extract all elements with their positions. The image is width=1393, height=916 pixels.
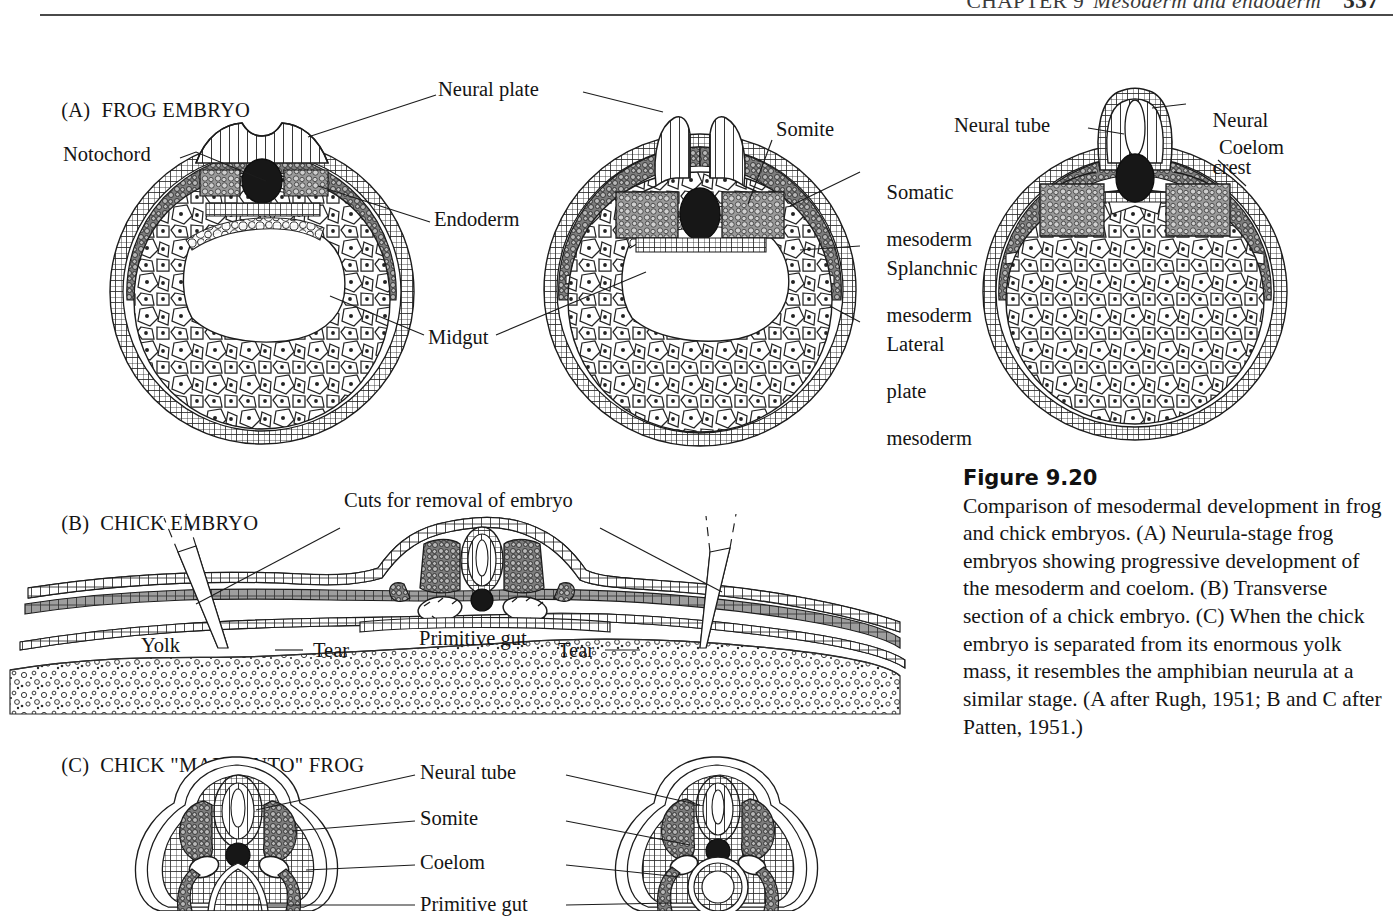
label-cuts-for-removal: Cuts for removal of embryo [344,489,573,512]
label-splanchnic-mesoderm-line1: Splanchnic [887,257,978,279]
figure-caption: Figure 9.20 Comparison of mesodermal dev… [963,466,1383,741]
label-neural-tube-a: Neural tube [954,114,1050,137]
label-tear-right: Tear [558,639,594,662]
label-lateral-plate-line2: plate [887,380,927,402]
label-neural-crest-line2: crest [1213,156,1252,178]
label-coelom-c: Coelom [420,851,485,874]
figure-caption-body: Comparison of mesodermal development in … [963,493,1383,742]
label-midgut: Midgut [428,326,488,349]
panel-c-leader-lines [0,745,1393,911]
label-yolk: Yolk [141,634,180,657]
label-lateral-plate-line3: mesoderm [887,427,972,449]
label-notochord: Notochord [63,143,151,166]
label-somite-c: Somite [420,807,478,830]
panel-a-leader-lines [0,0,1393,470]
label-neural-plate: Neural plate [438,78,539,101]
label-primitive-gut-b: Primitive gut [419,627,527,650]
label-tear-left: Tear [313,639,349,662]
label-neural-crest-line1: Neural [1213,109,1269,131]
label-somite: Somite [776,118,834,141]
label-primitive-gut-c: Primitive gut [420,893,528,916]
label-lateral-plate-line1: Lateral [887,333,945,355]
label-endoderm: Endoderm [434,208,519,231]
label-neural-tube-c: Neural tube [420,761,516,784]
label-lateral-plate-mesoderm: Lateral plate mesoderm [866,310,972,474]
figure-caption-heading: Figure 9.20 [963,466,1383,492]
label-somatic-mesoderm-line1: Somatic [887,181,954,203]
label-coelom-a: Coelom [1219,136,1284,159]
